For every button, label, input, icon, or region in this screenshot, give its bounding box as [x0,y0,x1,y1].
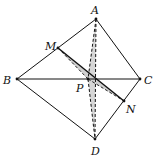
label-m: M [44,40,57,53]
tetrahedron-diagram: A M B C P N D [0,0,153,164]
edge-ac [96,19,140,79]
label-b: B [2,74,11,87]
label-a: A [90,4,99,17]
point-c-dot [139,78,142,81]
point-a-dot [95,18,98,21]
point-p-dot [87,78,90,81]
dashed-segment-mp [58,48,88,79]
point-d-dot [94,138,97,141]
label-p: P [75,82,84,95]
label-n: N [125,103,136,116]
point-m-dot [57,47,60,50]
label-c: C [144,74,153,87]
point-n-dot [123,100,126,103]
label-d: D [90,145,100,158]
point-b-dot [16,78,19,81]
